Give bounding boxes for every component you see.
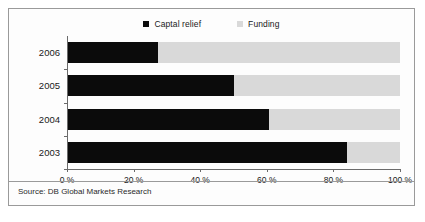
x-axis-tick [67, 169, 68, 172]
bar-segment-capital-relief [68, 75, 234, 96]
chart-legend: Captal relief Funding [9, 15, 414, 33]
plot-area: 2006200520042003 [67, 36, 400, 169]
y-axis-label-2005: 2005 [20, 75, 60, 96]
x-axis-tick [200, 169, 201, 172]
x-axis-label-80: 80 % [324, 175, 343, 185]
legend-entry-funding: Funding [237, 19, 279, 29]
x-axis-line [67, 169, 400, 170]
legend-entry-capital-relief: Captal relief [143, 19, 201, 29]
x-axis-label-0: 0 % [60, 175, 75, 185]
legend-label-capital-relief: Captal relief [154, 19, 201, 29]
plot-inner: 2006200520042003 [67, 36, 400, 169]
legend-label-funding: Funding [248, 19, 279, 29]
bar-segment-capital-relief [68, 109, 269, 130]
x-axis-label-20: 20 % [124, 175, 143, 185]
y-axis-tick [64, 103, 68, 104]
source-divider [9, 181, 414, 182]
bar-row: 2006 [68, 42, 400, 63]
source-note: Source: DB Global Markets Research [18, 187, 151, 196]
bar-segment-capital-relief [68, 142, 347, 163]
bar-row: 2004 [68, 109, 400, 130]
x-axis-label-60: 60 % [257, 175, 276, 185]
y-axis-tick [64, 69, 68, 70]
y-axis-label-2003: 2003 [20, 142, 60, 163]
legend-swatch-funding [237, 21, 243, 27]
y-axis-tick [64, 136, 68, 137]
chart-figure: Captal relief Funding 2006200520042003 0… [8, 8, 415, 206]
x-axis-tick [400, 169, 401, 172]
x-axis-label-100: 100 % [388, 175, 412, 185]
legend-swatch-capital-relief [143, 21, 149, 27]
x-axis-label-40: 40 % [191, 175, 210, 185]
y-axis-label-2004: 2004 [20, 109, 60, 130]
x-axis-tick [333, 169, 334, 172]
bar-row: 2005 [68, 75, 400, 96]
y-axis-label-2006: 2006 [20, 42, 60, 63]
x-axis-tick [134, 169, 135, 172]
bar-row: 2003 [68, 142, 400, 163]
x-axis-tick [267, 169, 268, 172]
bar-segment-capital-relief [68, 42, 158, 63]
